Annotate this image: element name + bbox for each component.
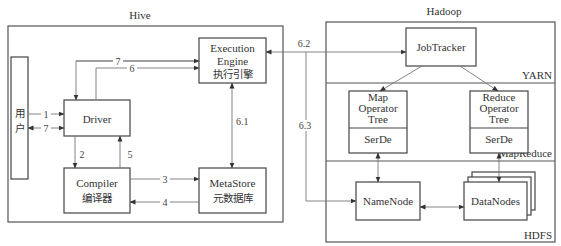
execution-engine-box[interactable]: Execution Engine 执行引擎 <box>199 38 266 83</box>
reduce-serde-label: SerDe <box>485 133 513 145</box>
edge-5-label: 5 <box>128 149 133 160</box>
namenode-box[interactable]: NameNode <box>356 182 420 220</box>
reduce-operator-tree-box[interactable]: Reduce Operator Tree SerDe <box>470 91 528 153</box>
jobtracker-to-map-arrow <box>380 66 422 91</box>
yarn-label: YARN <box>522 69 552 81</box>
map-operator-tree-box[interactable]: Map Operator Tree SerDe <box>349 91 407 153</box>
user-label-line2: 户 <box>15 122 25 134</box>
edge-3-label: 3 <box>163 174 168 185</box>
edge-7-user-label: 7 <box>44 123 49 134</box>
edge-7-top-arrow <box>76 61 199 100</box>
jobtracker-box[interactable]: JobTracker <box>406 28 476 66</box>
map-tree-label-3: Tree <box>368 113 388 125</box>
compiler-box[interactable]: Compiler 编译器 <box>64 168 130 213</box>
datanodes-box[interactable]: DataNodes <box>464 172 535 220</box>
edge-2-label: 2 <box>80 149 85 160</box>
compiler-label-cn: 编译器 <box>82 192 113 204</box>
compiler-label: Compiler <box>76 177 118 189</box>
driver-label: Driver <box>83 113 112 125</box>
edge-6-label: 6 <box>130 63 135 74</box>
driver-box[interactable]: Driver <box>64 100 130 136</box>
edge-6-arrow <box>96 68 199 100</box>
reduce-tree-label-3: Tree <box>489 113 509 125</box>
execution-engine-label-1: Execution <box>210 42 255 54</box>
metastore-label-cn: 元数据库 <box>213 192 253 204</box>
user-label-line1: 用 <box>15 107 25 119</box>
jobtracker-to-reduce-arrow <box>460 66 498 91</box>
edge-6-3-label: 6.3 <box>299 120 312 131</box>
jobtracker-label: JobTracker <box>416 41 465 53</box>
execution-engine-label-2: Engine <box>217 55 248 67</box>
edge-1-label: 1 <box>44 109 49 120</box>
edge-6-2-label: 6.2 <box>298 38 311 49</box>
edge-7-top-label: 7 <box>116 56 121 67</box>
edge-6-1-label: 6.1 <box>236 116 249 127</box>
hive-hadoop-architecture-diagram: Hive 用 户 Driver Compiler 编译器 Execution E… <box>0 0 561 246</box>
map-serde-label: SerDe <box>364 133 392 145</box>
hadoop-title: Hadoop <box>427 5 462 17</box>
hive-title: Hive <box>129 9 151 21</box>
execution-engine-label-cn: 执行引擎 <box>213 68 254 80</box>
metastore-label: MetaStore <box>210 177 256 189</box>
namenode-label: NameNode <box>363 195 413 207</box>
metastore-box[interactable]: MetaStore 元数据库 <box>199 168 266 213</box>
user-box[interactable]: 用 户 <box>11 57 28 179</box>
edge-4-label: 4 <box>163 197 168 208</box>
hdfs-label: HDFS <box>524 229 552 241</box>
datanodes-label: DataNodes <box>471 195 520 207</box>
